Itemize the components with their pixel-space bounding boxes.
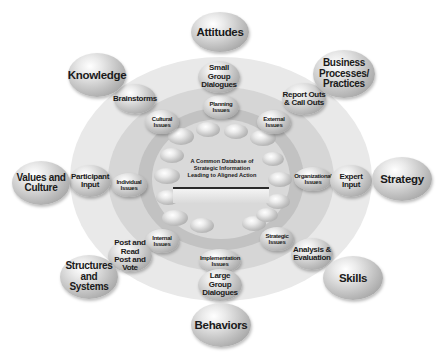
node-values-culture[interactable]: Values andCulture <box>12 161 70 205</box>
node-attitudes[interactable]: Attitudes <box>191 12 249 52</box>
node-structures-systems[interactable]: Structuresand Systems <box>60 255 118 299</box>
node-analysis-evaluation[interactable]: Analysis &Evaluation <box>291 238 333 270</box>
decorative-sphere <box>154 168 180 184</box>
node-external-issues[interactable]: ExternalIssues <box>257 110 291 134</box>
node-strategic-issues[interactable]: StrategicIssues <box>260 227 294 251</box>
decorative-sphere <box>268 172 292 187</box>
center-label: A Common Database of Strategic Informati… <box>182 158 262 179</box>
center-line-3: Leading to Aligned Action <box>182 172 262 179</box>
decorative-sphere <box>160 148 184 163</box>
decorative-sphere <box>256 208 278 222</box>
node-cultural-issues[interactable]: CulturalIssues <box>145 110 179 134</box>
node-organizational-issues[interactable]: OrganizationalIssues <box>294 167 332 191</box>
node-large-group-dialogues[interactable]: Large GroupDialogues <box>198 269 242 301</box>
node-business-processes[interactable]: BusinessProcesses/Practices <box>313 50 375 98</box>
node-behaviors[interactable]: Behaviors <box>191 303 251 347</box>
node-knowledge[interactable]: Knowledge <box>68 53 126 97</box>
node-small-group-dialogues[interactable]: Small GroupDialogues <box>198 61 240 93</box>
node-individual-issues[interactable]: IndividualIssues <box>111 173 147 197</box>
decorative-sphere <box>190 218 214 233</box>
decorative-sphere <box>262 152 284 166</box>
decorative-sphere <box>196 122 220 137</box>
decorative-sphere <box>266 194 290 209</box>
center-bar <box>173 187 269 203</box>
node-participant-input[interactable]: ParticipantInput <box>69 165 111 197</box>
node-strategy[interactable]: Strategy <box>372 157 432 201</box>
node-brainstorms[interactable]: Brainstorms <box>114 84 156 114</box>
node-planning-issues[interactable]: PlanningIssues <box>203 95 239 119</box>
node-expert-input[interactable]: Expert Input <box>330 165 372 197</box>
decorative-sphere <box>224 124 248 139</box>
node-skills[interactable]: Skills <box>323 256 383 300</box>
decorative-sphere <box>162 210 188 226</box>
center-line-2: Strategic Information <box>182 165 262 172</box>
center-line-1: A Common Database of <box>182 158 262 165</box>
